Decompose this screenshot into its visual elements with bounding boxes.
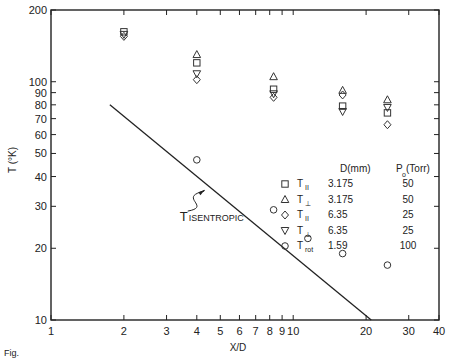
legend-p-value: 100 bbox=[400, 240, 417, 251]
legend-d-value: 1.59 bbox=[328, 240, 348, 251]
legend-sub: II bbox=[305, 184, 309, 191]
legend-header-unit: (Torr) bbox=[406, 163, 430, 174]
y-tick-label: 60 bbox=[35, 129, 47, 141]
triangle-up-marker bbox=[384, 96, 392, 103]
y-tick-label: 20 bbox=[35, 242, 47, 254]
legend-sub: ⊥ bbox=[305, 200, 311, 207]
annotation-label: T bbox=[180, 209, 188, 224]
plot-frame bbox=[51, 10, 439, 320]
x-tick-label: 1 bbox=[48, 325, 54, 337]
y-tick-label: 200 bbox=[29, 4, 47, 16]
y-tick-label: 100 bbox=[29, 76, 47, 88]
y-axis: 102030405060708090100200 bbox=[29, 4, 439, 326]
y-tick-label: 30 bbox=[35, 200, 47, 212]
x-tick-label: 30 bbox=[403, 325, 415, 337]
x-axis-title: X/D bbox=[230, 342, 247, 353]
y-tick-label: 90 bbox=[35, 87, 47, 99]
legend-sub: rot bbox=[305, 246, 313, 253]
legend-diamond-icon bbox=[282, 211, 289, 219]
triangle-up-marker bbox=[339, 86, 347, 93]
legend-d-value: 6.35 bbox=[328, 225, 348, 236]
legend-d-value: 3.175 bbox=[328, 178, 353, 189]
y-tick-label: 50 bbox=[35, 147, 47, 159]
x-tick-label: 10 bbox=[287, 325, 299, 337]
x-tick-label: 7 bbox=[253, 325, 259, 337]
x-tick-label: 4 bbox=[194, 325, 200, 337]
square-marker bbox=[194, 60, 200, 66]
circle-marker bbox=[339, 250, 346, 257]
x-tick-label: 2 bbox=[121, 325, 127, 337]
diamond-marker bbox=[339, 91, 346, 99]
legend-d-value: 6.35 bbox=[328, 209, 348, 220]
triangle-up-marker bbox=[270, 73, 278, 80]
diamond-marker bbox=[384, 121, 391, 129]
y-axis-title: T (°K) bbox=[7, 147, 18, 173]
legend-label: T bbox=[297, 194, 303, 205]
figure-caption: Fig. bbox=[4, 348, 19, 358]
legend-header-d: D(mm) bbox=[340, 163, 371, 174]
data-points bbox=[120, 29, 391, 269]
circle-marker bbox=[194, 157, 201, 164]
x-tick-label: 20 bbox=[360, 325, 372, 337]
legend-sub: II bbox=[305, 215, 309, 222]
legend-label: T bbox=[297, 178, 303, 189]
legend-p-value: 25 bbox=[402, 209, 414, 220]
legend-label: T bbox=[297, 209, 303, 220]
y-tick-label: 10 bbox=[35, 314, 47, 326]
plot-border bbox=[51, 10, 439, 320]
triangle-down-marker bbox=[384, 104, 392, 111]
legend-square-icon bbox=[282, 181, 288, 187]
circle-marker bbox=[384, 262, 391, 269]
legend-triangle-down-icon bbox=[281, 228, 289, 235]
legend-triangle-up-icon bbox=[281, 196, 289, 203]
legend-p-value: 50 bbox=[402, 178, 414, 189]
y-tick-label: 80 bbox=[35, 99, 47, 111]
x-tick-label: 6 bbox=[236, 325, 242, 337]
x-axis: 12345678910203040 bbox=[48, 10, 445, 337]
triangle-down-marker bbox=[193, 71, 201, 78]
x-tick-label: 40 bbox=[433, 325, 445, 337]
y-tick-label: 40 bbox=[35, 171, 47, 183]
square-marker bbox=[270, 86, 276, 92]
annotation-sub: ISENTROPIC bbox=[189, 213, 245, 223]
legend-label: T bbox=[297, 225, 303, 236]
chart: 12345678910203040 1020304050607080901002… bbox=[0, 0, 451, 358]
x-tick-label: 5 bbox=[217, 325, 223, 337]
x-tick-label: 8 bbox=[267, 325, 273, 337]
x-tick-label: 3 bbox=[163, 325, 169, 337]
x-tick-label: 9 bbox=[279, 325, 285, 337]
legend-p-value: 25 bbox=[402, 225, 414, 236]
y-tick-label: 70 bbox=[35, 113, 47, 125]
legend-d-value: 3.175 bbox=[328, 194, 353, 205]
legend-sub: ⊥ bbox=[305, 231, 311, 238]
triangle-up-marker bbox=[193, 51, 201, 58]
legend: D(mm)Po(Torr)TII3.17550T⊥3.17550TII6.352… bbox=[281, 163, 430, 253]
circle-marker bbox=[270, 207, 277, 214]
legend-label: T bbox=[297, 240, 303, 251]
legend-p-value: 50 bbox=[402, 194, 414, 205]
